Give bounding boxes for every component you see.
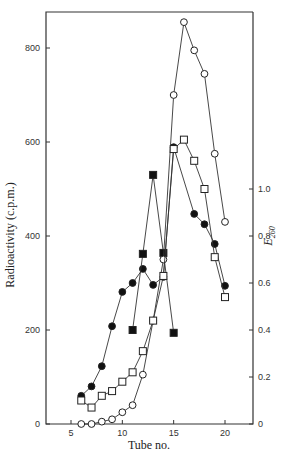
data-point-open-square [191, 157, 198, 164]
data-point-filled-circle [150, 281, 157, 288]
data-point-filled-circle [88, 383, 95, 390]
data-point-open-square [119, 378, 126, 385]
data-point-open-square [150, 317, 157, 324]
y-tick-label: 800 [25, 43, 40, 53]
data-point-open-square [222, 294, 229, 301]
data-point-filled-square [150, 171, 157, 178]
data-point-open-square [201, 186, 208, 193]
data-point-filled-circle [109, 323, 116, 330]
data-point-open-circle [109, 416, 116, 423]
series-filled-circle [78, 144, 229, 399]
data-point-open-square [139, 348, 146, 355]
x-tick-label: 10 [117, 428, 127, 438]
data-point-open-circle [129, 402, 136, 409]
data-point-open-circle [139, 371, 146, 378]
y2-tick-label: 0.6 [258, 278, 271, 288]
y2-tick-label: 0 [258, 419, 263, 429]
x-axis-title: Tube no. [128, 438, 170, 452]
data-point-open-square [160, 272, 167, 279]
data-point-open-square [211, 254, 218, 261]
data-point-open-square [109, 388, 116, 395]
data-point-filled-square [129, 327, 136, 334]
y2-tick-label: 0.4 [258, 325, 271, 335]
data-point-open-square [98, 392, 105, 399]
y-tick-label: 0 [35, 419, 40, 429]
data-point-open-circle [211, 150, 218, 157]
data-point-open-circle [201, 70, 208, 77]
y-tick-label: 200 [25, 325, 40, 335]
y2-axis-ticks: 00.20.40.60.81.0 [249, 184, 271, 429]
data-point-filled-circle [119, 289, 126, 296]
data-point-open-circle [78, 421, 85, 428]
data-point-filled-circle [201, 221, 208, 228]
x-tick-label: 20 [220, 428, 230, 438]
axis-lines [46, 12, 253, 424]
data-point-open-circle [98, 418, 105, 425]
y2-tick-label: 1.0 [258, 184, 271, 194]
y2-axis-title-sub: 260 [268, 226, 277, 238]
x-tick-label: 15 [169, 428, 179, 438]
data-point-open-circle [160, 256, 167, 263]
data-point-filled-square [170, 329, 177, 336]
y-tick-label: 400 [25, 231, 40, 241]
data-point-open-circle [181, 19, 188, 26]
data-point-open-circle [222, 219, 229, 226]
y-tick-label: 600 [25, 137, 40, 147]
data-point-open-circle [119, 409, 126, 416]
data-point-open-square [180, 136, 187, 143]
data-point-open-circle [191, 47, 198, 54]
data-point-open-circle [170, 92, 177, 99]
y-axis-title: Radioactivity (c.p.m.) [3, 182, 17, 287]
data-point-open-circle [88, 421, 95, 428]
data-point-open-square [129, 369, 136, 376]
x-tick-label: 5 [68, 428, 73, 438]
data-point-filled-circle [191, 211, 198, 218]
y2-tick-label: 0.2 [258, 372, 271, 382]
chart: 5101520 0200400600800 00.20.40.60.81.0 T… [0, 0, 289, 461]
data-point-filled-circle [98, 363, 105, 370]
data-point-filled-circle [129, 280, 136, 287]
data-point-open-square [88, 404, 95, 411]
data-point-open-square [78, 397, 85, 404]
data-point-filled-square [139, 250, 146, 257]
data-series [78, 19, 229, 428]
plot-frame [46, 12, 253, 424]
data-point-open-square [170, 146, 177, 153]
series-line [81, 147, 225, 396]
